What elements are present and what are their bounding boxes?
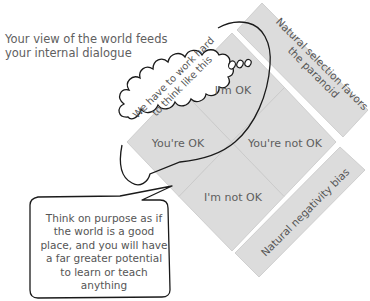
diagram-canvas: Your view of the world feeds your intern… [0,0,370,301]
quadrant-label-youre-ok: You're OK [152,137,204,150]
heading-line-2: your internal dialogue [5,46,175,60]
speech-bubble-text: Think on purpose as if the world is a go… [40,212,168,292]
quadrant-label-youre-not-ok: You're not OK [248,137,322,150]
heading-text: Your view of the world feeds your intern… [5,32,175,60]
heading-line-1: Your view of the world feeds [5,32,175,46]
quadrant-label-im-ok: I'm OK [215,84,251,97]
quadrant-label-im-not-ok: I'm not OK [204,191,262,204]
